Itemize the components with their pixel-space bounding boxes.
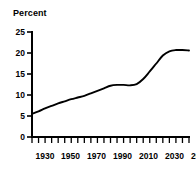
y-axis-tick-labels: 25 20 15 10 5 0 — [16, 27, 26, 142]
x-tick-label-2050: 2050 — [191, 151, 196, 161]
x-tick-label-1970: 1970 — [87, 151, 106, 161]
x-tick-label-2010: 2010 — [139, 151, 158, 161]
x-tick-label-1950: 1950 — [61, 151, 80, 161]
y-tick-label-5: 5 — [20, 111, 25, 121]
data-series-line — [32, 50, 189, 114]
y-tick-label-10: 10 — [16, 90, 26, 100]
x-tick-label-1930: 1930 — [36, 151, 55, 161]
y-tick-label-0: 0 — [20, 132, 25, 142]
chart-figure: Percent 25 20 15 10 5 0 — [0, 0, 196, 171]
y-tick-label-20: 20 — [16, 48, 26, 58]
y-tick-label-25: 25 — [16, 27, 26, 37]
line-chart-plot: 25 20 15 10 5 0 — [0, 0, 196, 171]
x-tick-label-2030: 2030 — [165, 151, 184, 161]
x-tick-label-1990: 1990 — [113, 151, 132, 161]
y-tick-label-15: 15 — [16, 69, 26, 79]
x-axis-tick-labels: 1930 1950 1970 1990 2010 2030 2050 — [36, 151, 196, 161]
